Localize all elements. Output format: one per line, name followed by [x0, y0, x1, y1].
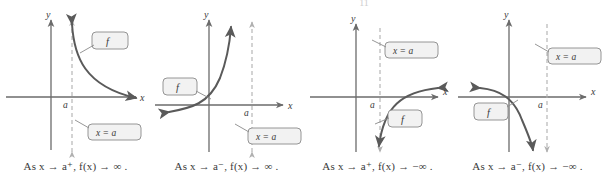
panel-3-caption: As x → a⁺, f(x) → −∞ . — [302, 160, 453, 173]
panel-1-caption: As x → a⁺, f(x) → ∞ . — [0, 160, 151, 173]
panel-4-plot: x y a x = a f — [452, 0, 603, 160]
x-axis-label: x — [590, 86, 596, 97]
x-axis-label: x — [139, 92, 145, 103]
y-axis-label: y — [350, 13, 356, 24]
x-axis-label: x — [287, 100, 293, 111]
panel-1: x y a f x = a As x → a⁺, f(x) → ∞ . — [0, 0, 151, 187]
function-curve — [169, 27, 231, 112]
callout-f-leader — [80, 45, 94, 53]
panel-4-caption: As x → a⁻, f(x) → −∞ . — [452, 160, 603, 173]
x-axis-label: x — [442, 86, 448, 97]
panel-4: x y a x = a f As x → a⁻, f(x) → −∞ . — [452, 0, 603, 187]
callout-asymptote-leader — [372, 40, 386, 47]
panel-3: x y a x = a f As x → a⁺, f(x) → −∞ . — [302, 0, 453, 187]
y-axis-label: y — [203, 9, 209, 20]
callout-f-box — [474, 103, 508, 120]
asymptote-label: x = a — [255, 132, 276, 142]
y-axis-label: y — [45, 9, 51, 20]
panel-3-plot: x y a x = a f — [302, 0, 453, 160]
tick-label-a: a — [370, 100, 375, 110]
panel-1-plot: x y a f x = a — [0, 0, 151, 160]
asymptote-label: x = a — [555, 52, 576, 62]
panel-2-plot: x y a f x = a — [151, 0, 302, 160]
limits-figure: 11 x y a f — [0, 0, 603, 187]
asymptote-label: x = a — [392, 46, 413, 56]
tick-label-a: a — [244, 108, 249, 118]
panel-2: x y a f x = a As x → a⁻, f(x) → ∞ . — [151, 0, 302, 187]
callout-f-box — [163, 78, 197, 95]
callout-f-box — [388, 110, 422, 127]
y-axis-label: y — [503, 9, 509, 20]
callout-asymptote-leader — [75, 120, 89, 128]
panel-2-caption: As x → a⁻, f(x) → ∞ . — [151, 160, 302, 173]
asymptote-label: x = a — [95, 128, 116, 138]
callout-f-leader — [375, 118, 389, 124]
tick-label-a: a — [63, 100, 68, 110]
callout-asymptote-leader — [235, 124, 249, 132]
tick-label-a: a — [538, 100, 543, 110]
callout-f-box — [92, 32, 128, 49]
